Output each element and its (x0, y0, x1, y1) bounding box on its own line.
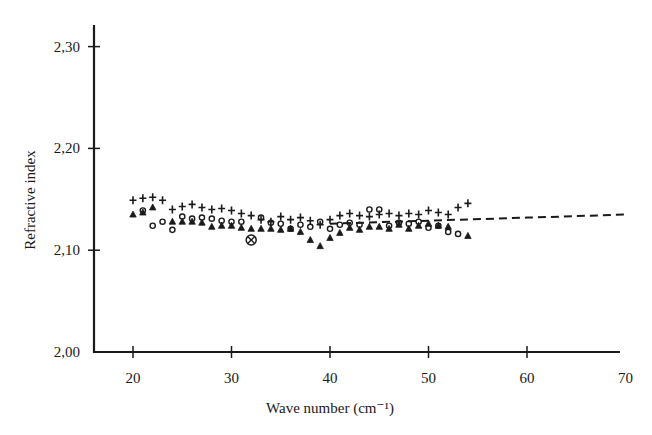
plus-marker (130, 196, 137, 204)
plus-marker (139, 194, 146, 202)
triangle-marker (366, 223, 372, 229)
plus-marker (277, 213, 284, 221)
triangle-marker (268, 225, 274, 231)
triangle-marker (465, 232, 471, 238)
y-tick-label: 2,20 (54, 140, 80, 156)
plus-marker (287, 216, 294, 224)
plus-marker (366, 213, 373, 221)
plus-marker (189, 200, 196, 208)
plus-marker (238, 210, 245, 218)
triangle-marker (356, 226, 362, 232)
x-tick-label: 40 (323, 370, 338, 386)
x-tick-label: 20 (126, 370, 141, 386)
plus-marker (356, 212, 363, 220)
triangle-marker (445, 223, 451, 229)
x-tick-label: 70 (618, 370, 633, 386)
triangle-marker (406, 225, 412, 231)
y-axis-title: Refractive index (22, 150, 38, 250)
triangle-marker (179, 218, 185, 224)
triangle-marker (337, 229, 343, 235)
plus-marker (169, 205, 176, 213)
plus-marker (445, 211, 452, 219)
y-tick-label: 2,30 (54, 39, 80, 55)
circle-marker (308, 224, 313, 229)
triangle-marker (297, 228, 303, 234)
triangle-marker (317, 243, 323, 249)
triangle-marker (199, 219, 205, 225)
triangle-marker (209, 223, 215, 229)
circled-cross-marker-x (248, 237, 255, 244)
plus-marker (425, 206, 432, 214)
plus-marker (179, 202, 186, 210)
plus-marker (464, 199, 471, 207)
triangle-marker (248, 225, 254, 231)
circle-marker (209, 216, 214, 221)
plus-marker (159, 196, 166, 204)
plus-marker (405, 210, 412, 218)
refractive-index-chart: 2030405060702,002,102,202,30 Wave number… (0, 0, 652, 435)
triangle-marker (278, 226, 284, 232)
data-markers (130, 193, 472, 248)
x-tick-label: 50 (421, 370, 436, 386)
plus-marker (228, 206, 235, 214)
axes (88, 25, 620, 358)
circle-marker (327, 226, 332, 231)
triangle-marker (347, 224, 353, 230)
plus-marker (415, 211, 422, 219)
y-tick-label: 2,10 (54, 242, 80, 258)
triangle-marker (258, 225, 264, 231)
circle-marker (455, 231, 460, 236)
y-tick-label: 2,00 (54, 344, 80, 360)
plus-marker (346, 210, 353, 218)
circle-marker (367, 207, 372, 212)
circle-marker (446, 229, 451, 234)
plus-marker (307, 217, 314, 225)
triangle-marker (169, 218, 175, 224)
plus-marker (208, 205, 215, 213)
plus-marker (297, 214, 304, 222)
plus-marker (455, 203, 462, 211)
circle-marker (298, 222, 303, 227)
triangle-marker (130, 211, 136, 217)
x-tick-label: 60 (520, 370, 535, 386)
x-tick-label: 30 (224, 370, 239, 386)
triangle-marker (150, 204, 156, 210)
plus-marker (248, 212, 255, 220)
fit-line (330, 215, 626, 224)
triangle-marker (307, 237, 313, 243)
dashed-fit-line (330, 215, 626, 224)
x-axis-title: Wave number (cm⁻¹) (266, 400, 394, 417)
triangle-marker (218, 222, 224, 228)
plus-marker (218, 204, 225, 212)
circle-marker (160, 219, 165, 224)
plus-marker (435, 209, 442, 217)
plus-marker (149, 193, 156, 201)
triangle-marker (327, 234, 333, 240)
plus-marker (395, 212, 402, 220)
circle-marker (170, 227, 175, 232)
triangle-marker (376, 223, 382, 229)
plus-marker (327, 216, 334, 224)
plus-marker (386, 210, 393, 218)
triangle-marker (238, 224, 244, 230)
circle-marker (150, 223, 155, 228)
plus-marker (198, 203, 205, 211)
circle-marker (337, 222, 342, 227)
plus-marker (336, 212, 343, 220)
